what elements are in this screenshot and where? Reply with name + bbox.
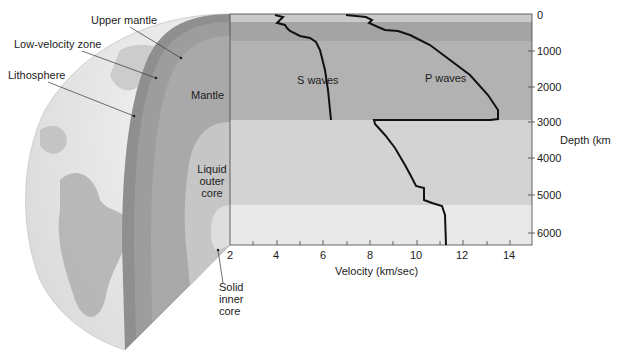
s-waves-label: S waves (297, 74, 339, 86)
x-tick: 4 (273, 249, 279, 261)
x-tick: 2 (227, 249, 233, 261)
y-tick: 0 (537, 9, 543, 21)
y-tick: 5000 (537, 189, 561, 201)
y-tick: 2000 (537, 81, 561, 93)
inner-core-label: Solid inner core (219, 281, 243, 317)
y-tick: 4000 (537, 152, 561, 164)
x-tick: 8 (367, 249, 373, 261)
y-axis-label: Depth (km (560, 134, 611, 146)
upper-mantle-label: Upper mantle (91, 14, 157, 26)
y-tick: 6000 (537, 227, 561, 239)
y-tick: 1000 (537, 45, 561, 57)
p-waves-label: P waves (425, 72, 466, 84)
lithosphere-label: Lithosphere (8, 69, 66, 81)
x-tick: 6 (320, 249, 326, 261)
outer-core-label: Liquid outer core (193, 163, 231, 199)
low-velocity-zone-label: Low-velocity zone (14, 38, 101, 50)
earth-interior-diagram (0, 0, 617, 353)
y-tick: 3000 (537, 116, 561, 128)
x-tick: 10 (410, 249, 422, 261)
mantle-label: Mantle (191, 89, 224, 101)
x-tick: 14 (503, 249, 515, 261)
x-tick: 12 (456, 249, 468, 261)
x-axis-label: Velocity (km/sec) (335, 265, 418, 277)
